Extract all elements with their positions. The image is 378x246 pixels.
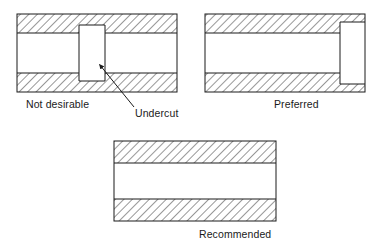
figure-recommended-caption: Recommended <box>199 228 271 240</box>
figure-preferred-relief-fill <box>340 22 365 84</box>
figure-recommended-bottom-band-fill <box>114 199 276 221</box>
figure-not-desirable-caption: Not desirable <box>26 98 89 110</box>
figure-not-desirable-undercut-fill <box>79 25 105 81</box>
undercut-callout-label: Undercut <box>135 107 178 119</box>
figure-recommended-top-band-fill <box>114 141 276 163</box>
figure-preferred-caption: Preferred <box>274 98 319 110</box>
technical-drawing-canvas <box>0 0 378 246</box>
